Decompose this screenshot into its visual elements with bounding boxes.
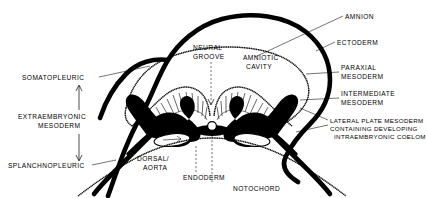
label-intermediate-line2: MESODERM	[341, 99, 383, 106]
label-notochord-text: NOTOCHORD	[233, 185, 280, 192]
label-dorsal-aorta-line2: AORTA	[143, 164, 168, 171]
label-lateral-plate-line3: INTRAEMBRYONIC COELOM	[334, 133, 426, 140]
label-endoderm-text: ENDODERM	[183, 174, 225, 181]
label-ectoderm-text: ECTODERM	[337, 39, 378, 46]
label-lateral-plate-line1: LATERAL PLATE MESODERM	[330, 117, 424, 124]
label-neural-groove-line1: NEURAL	[193, 44, 222, 51]
notochord-ring	[208, 122, 217, 131]
label-amniotic-cavity-line1: AMNIOTIC	[243, 54, 279, 61]
label-lateral-plate-line2: CONTAINING DEVELOPING	[330, 125, 418, 132]
embryo-cross-section-figure: AMNION ECTODERM PARAXIAL MESODERM INTERM…	[0, 0, 427, 198]
label-paraxial-line1: PARAXIAL	[341, 64, 376, 71]
label-somatopleuric-text: SOMATOPLEURIC	[22, 74, 84, 81]
label-neural-groove-line2: GROOVE	[193, 53, 225, 60]
label-amniotic-cavity-line2: CAVITY	[246, 63, 272, 70]
label-splanchnopleuric-text: SPLANCHNOPLEURIC	[8, 162, 85, 169]
label-extraembryonic-line2: MESODERM	[38, 122, 80, 129]
label-extraembryonic-line1: EXTRAEMBRYONIC	[18, 113, 86, 120]
label-amnion-text: AMNION	[345, 13, 374, 20]
label-paraxial-line2: MESODERM	[341, 73, 383, 80]
label-dorsal-aorta-line1: DORSAL/	[137, 155, 169, 162]
label-intermediate-line1: INTERMEDIATE	[341, 90, 395, 97]
diagram-canvas: AMNION ECTODERM PARAXIAL MESODERM INTERM…	[0, 0, 427, 198]
